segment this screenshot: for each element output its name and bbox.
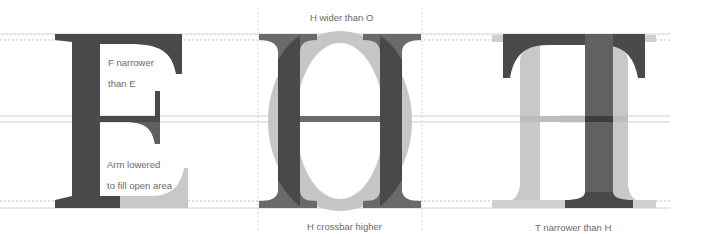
label-h-crossbar-higher: H crossbar higher <box>307 220 382 234</box>
annotation-line: to fill open area <box>107 175 172 196</box>
annotation-arm-lowered: Arm lowered to fill open area <box>107 154 172 196</box>
annotation-f-narrower: F narrower than E <box>108 52 154 94</box>
annotation-line: F narrower <box>108 52 154 73</box>
label-t-narrower-than-h: T narrower than H <box>535 221 611 234</box>
annotation-line: Arm lowered <box>107 154 172 175</box>
diagram-canvas <box>0 0 704 234</box>
label-h-wider-than-o: H wider than O <box>310 11 373 25</box>
annotation-line: than E <box>108 73 154 94</box>
letter-proportion-diagram: F narrower than E Arm lowered to fill op… <box>0 0 704 234</box>
